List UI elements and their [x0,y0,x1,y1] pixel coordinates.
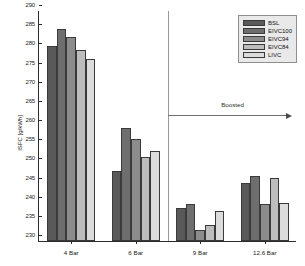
legend-swatch [243,36,265,42]
legend-item: EIVC94 [243,35,292,43]
bar [66,37,76,241]
y-axis-tick-label: 280 [26,40,39,46]
bar [205,225,215,241]
y-axis-tick-label: 265 [26,98,39,104]
boosted-arrow-head-icon [286,113,292,119]
x-axis-label: 12.6 Bar [253,249,276,256]
boosted-divider [168,11,169,241]
bar [141,157,151,241]
bar [131,139,141,241]
y-axis-tick-label: 250 [26,155,39,161]
legend-label: EIVC84 [268,44,289,50]
legend-label: BSL [268,20,279,26]
bar [186,204,196,241]
y-axis-tick-label: 285 [26,21,39,27]
y-axis-tick-label: 260 [26,117,39,123]
y-axis-tick-label: 235 [26,213,39,219]
legend-swatch [243,20,265,26]
bar [150,151,160,241]
x-axis-label: 9 Bar [193,249,208,256]
legend-label: EIVC100 [268,28,292,34]
x-axis-tick [265,241,266,244]
x-axis-tick [200,241,201,244]
y-axis-tick-label: 245 [26,175,39,181]
bar [270,178,280,241]
legend-swatch [243,28,265,34]
y-axis-tick-label: 230 [26,232,39,238]
boosted-arrow-line [168,115,287,116]
y-axis-tick-label: 240 [26,194,39,200]
bar [260,204,270,241]
x-axis-tick [71,241,72,244]
y-axis-tick-label: 270 [26,79,39,85]
y-axis-tick-label: 290 [26,2,39,8]
bar [76,50,86,241]
legend-item: BSL [243,19,292,27]
legend-swatch [243,52,265,58]
bar [57,29,67,241]
bar [195,230,205,241]
y-axis-tick-label: 255 [26,136,39,142]
isfc-bar-chart: ISFC [g/kWh] 230235240245250255260265270… [0,0,305,266]
bar [279,203,289,241]
bar [176,208,186,241]
bar [112,171,122,241]
bar [215,211,225,241]
y-axis-tick-label: 275 [26,60,39,66]
bar [121,128,131,241]
boosted-label: Boosted [221,101,244,108]
x-axis-label: 6 Bar [128,249,143,256]
legend: BSLEIVC100EIVC94EIVC84LIVC [238,15,297,63]
bar [241,183,251,241]
bar [86,59,96,241]
legend-item: LIVC [243,51,292,59]
legend-item: EIVC84 [243,43,292,51]
legend-label: EIVC94 [268,36,289,42]
y-axis-title: ISFC [g/kWh] [17,115,23,151]
bar [47,46,57,241]
x-axis-label: 4 Bar [64,249,79,256]
legend-label: LIVC [268,52,281,58]
bar [250,176,260,241]
x-axis-tick [136,241,137,244]
legend-swatch [243,44,265,50]
legend-item: EIVC100 [243,27,292,35]
